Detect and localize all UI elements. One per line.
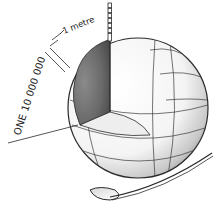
cutaway-meridian-face: [73, 40, 110, 125]
fraction-label: ONE 10 000 000: [11, 55, 47, 136]
globe: [68, 3, 208, 178]
polar-axis-rod: [108, 3, 112, 41]
metre-label: 1 metre: [61, 14, 96, 36]
earth-meridian-diagram: ONE 10 000 000 1 metre: [0, 0, 216, 206]
